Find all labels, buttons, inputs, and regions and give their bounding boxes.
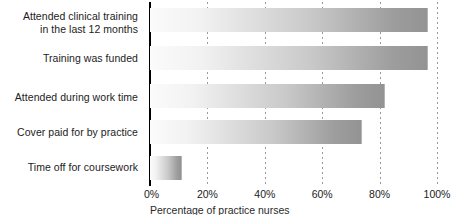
category-label-training-was-funded: Training was funded: [0, 52, 138, 65]
category-label-line1: Time off for coursework: [0, 161, 138, 174]
x-tick-label: 60%: [312, 188, 333, 201]
x-tick-label: 40%: [254, 188, 275, 201]
bar: [150, 8, 428, 32]
bar: [150, 120, 362, 144]
x-axis-tick-labels: 0%20%40%60%80%100%: [150, 188, 437, 202]
bar-chart: Attended clinical training in the last 1…: [0, 0, 456, 215]
category-label-attended-clinical-training: Attended clinical training in the last 1…: [0, 10, 138, 35]
bar: [150, 46, 428, 70]
x-tick-label: 0%: [144, 188, 159, 201]
category-label-line1: Attended during work time: [0, 91, 138, 104]
x-tick-label: 80%: [369, 188, 390, 201]
category-label-attended-during-work-time: Attended during work time: [0, 91, 138, 104]
bar: [150, 156, 182, 180]
category-label-line1: Training was funded: [0, 52, 138, 65]
x-tick-label: 20%: [197, 188, 218, 201]
bar: [150, 84, 385, 108]
category-label-time-off-for-coursework: Time off for coursework: [0, 161, 138, 174]
category-label-line2: in the last 12 months: [0, 23, 138, 36]
category-label-line1: Attended clinical training: [0, 10, 138, 23]
gridline-100: [437, 2, 438, 186]
plot-area: [150, 0, 437, 186]
x-tick-label: 100%: [424, 188, 451, 201]
x-axis-title: Percentage of practice nurses: [150, 204, 450, 215]
category-axis-labels: Attended clinical training in the last 1…: [0, 0, 144, 186]
category-label-line1: Cover paid for by practice: [0, 126, 138, 139]
category-label-cover-paid-for-by-practice: Cover paid for by practice: [0, 126, 138, 139]
